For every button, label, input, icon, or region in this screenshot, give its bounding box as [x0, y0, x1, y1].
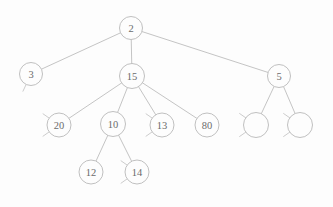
tree-node[interactable]: 5	[268, 65, 291, 88]
tree-edge	[118, 88, 128, 113]
tree-edge	[41, 33, 120, 69]
edges-layer	[41, 32, 295, 162]
node-circle	[244, 113, 269, 138]
tree-node-empty[interactable]	[244, 113, 269, 138]
node-label: 12	[86, 167, 97, 178]
node-label: 3	[28, 69, 33, 80]
null-pointer-stub	[284, 114, 290, 118]
tree-node[interactable]: 10	[101, 112, 126, 137]
tree-node-empty[interactable]	[288, 113, 313, 138]
tree-node[interactable]: 15	[120, 64, 145, 89]
null-pointer-stub	[240, 132, 246, 136]
null-pointer-stub	[240, 114, 246, 118]
tree-node[interactable]: 3	[20, 63, 43, 86]
node-label: 15	[127, 71, 138, 82]
node-label: 80	[202, 120, 213, 131]
nodes-layer: 23155201013801214	[20, 17, 313, 185]
null-pointer-stub	[146, 114, 152, 118]
tree-edge	[284, 87, 296, 114]
tree-edge	[142, 83, 196, 119]
tree-edge	[142, 32, 268, 73]
tree-diagram-canvas: 23155201013801214	[0, 0, 333, 207]
node-label: 13	[157, 120, 168, 131]
node-label: 2	[128, 23, 133, 34]
node-label: 5	[276, 71, 281, 82]
tree-node[interactable]: 12	[79, 160, 103, 184]
node-circle	[288, 113, 313, 138]
tree-edge	[131, 39, 132, 63]
null-pointer-stub	[146, 132, 152, 136]
tree-edge	[119, 135, 132, 161]
node-label: 10	[108, 119, 119, 130]
tree-node[interactable]: 13	[150, 113, 174, 137]
tree-edge	[139, 87, 156, 115]
tree-node[interactable]: 2	[120, 17, 143, 40]
node-label: 20	[54, 120, 65, 131]
null-pointer-stub	[23, 84, 26, 91]
null-pointer-stub	[43, 114, 49, 118]
null-pointer-stub	[121, 161, 127, 165]
node-label: 14	[132, 167, 143, 178]
null-pointer-stub	[43, 132, 49, 136]
tree-edge	[261, 86, 274, 113]
tree-edge	[96, 135, 108, 161]
tree-node[interactable]: 80	[195, 113, 219, 137]
null-pointer-stub	[121, 179, 127, 183]
tree-node[interactable]: 14	[125, 160, 149, 184]
tree-diagram-svg: 23155201013801214	[0, 0, 333, 207]
null-pointer-stub	[284, 132, 290, 136]
tree-node[interactable]: 20	[47, 113, 71, 137]
